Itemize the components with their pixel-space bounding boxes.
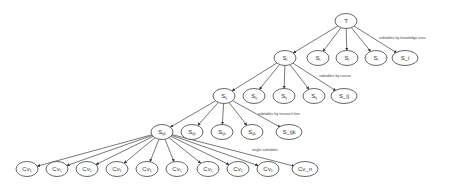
tree-node: S_ij	[331, 89, 357, 104]
edge-arrow	[290, 65, 309, 90]
tree-node: Cv1	[106, 162, 128, 177]
tree-node: Si	[365, 51, 387, 66]
tree-node: Si	[307, 51, 329, 66]
tree-node: Cv1	[166, 162, 188, 177]
edge-arrow	[293, 26, 338, 53]
tree-node: T	[335, 14, 357, 29]
edge-arrow	[346, 28, 347, 50]
tree-node: S_ijk	[276, 125, 302, 140]
tree-node: Cv1	[257, 162, 279, 177]
tree-node: Sij	[213, 89, 235, 104]
edge-arrow	[323, 28, 341, 52]
edge-arrow	[284, 65, 285, 88]
level-annotation: subtables by course	[319, 74, 351, 78]
tree-node: S_i	[392, 51, 418, 66]
tree-node: Sij	[303, 89, 325, 104]
tree-node: Sijk	[241, 125, 263, 140]
edge-arrow	[169, 138, 201, 164]
tree-node: Cv1	[136, 162, 158, 177]
level-annotation: subtables by research line	[258, 112, 300, 116]
node-label: S_ijk	[282, 129, 296, 135]
node-label: S_ij	[339, 93, 349, 99]
tree-node: Si	[336, 51, 358, 66]
tree-node: Sijk	[181, 125, 203, 140]
edge-arrow	[96, 136, 153, 164]
edge-arrow	[229, 103, 247, 126]
edge-arrow	[351, 28, 370, 52]
edge-arrow	[124, 138, 155, 163]
edge-arrow	[150, 139, 159, 162]
edge-arrow	[170, 101, 215, 127]
tree-node: Cv1	[76, 162, 98, 177]
edge-arrow	[165, 139, 174, 162]
tree-node: Cv1	[197, 162, 219, 177]
level-annotation: subtables by knowledge area	[379, 36, 426, 40]
node-label: Cv_n	[298, 166, 312, 172]
tree-node: Cv_n	[292, 162, 318, 177]
node-label: T	[344, 18, 348, 24]
edge-arrow	[222, 103, 223, 124]
tree-node: Sij	[243, 89, 265, 104]
tree-node: Sij	[273, 89, 295, 104]
tree-node: Sijk	[211, 125, 233, 140]
nodes: TSiSiSiSiS_iSijSijSijSijS_ijSijkSijkSijk…	[16, 14, 418, 177]
tree-diagram: subtables by knowledge areasubtables by …	[0, 0, 450, 195]
edge-arrow	[171, 136, 229, 164]
level-annotation: single subtables	[252, 148, 278, 152]
tree-node: Cv1	[46, 162, 68, 177]
tree-node: Si	[274, 51, 296, 66]
edge-arrow	[232, 63, 277, 91]
tree-node: Cv1	[227, 162, 249, 177]
tree-node: Sijk	[151, 125, 173, 140]
tree-node: Cv1	[16, 162, 38, 177]
edge-arrow	[198, 102, 219, 125]
node-label: S_i	[401, 55, 410, 61]
edge-arrow	[259, 65, 279, 90]
